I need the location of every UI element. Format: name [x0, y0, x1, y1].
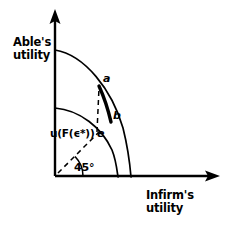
utility-frontier-figure: Able's utility Infirm's utility a b e u(…	[0, 0, 231, 230]
ab-highlight-segment	[99, 86, 111, 122]
inner-frontier-label: u(F(ϵ*))	[50, 128, 95, 140]
angle-label: 45°	[74, 162, 94, 174]
point-a-label: a	[103, 73, 110, 85]
point-e-label: e	[97, 128, 104, 140]
e-to-a-dashed-line	[97, 88, 99, 132]
y-axis-label: Able's utility	[13, 36, 51, 62]
x-axis-label: Infirm's utility	[146, 189, 194, 215]
point-b-label: b	[113, 110, 121, 122]
